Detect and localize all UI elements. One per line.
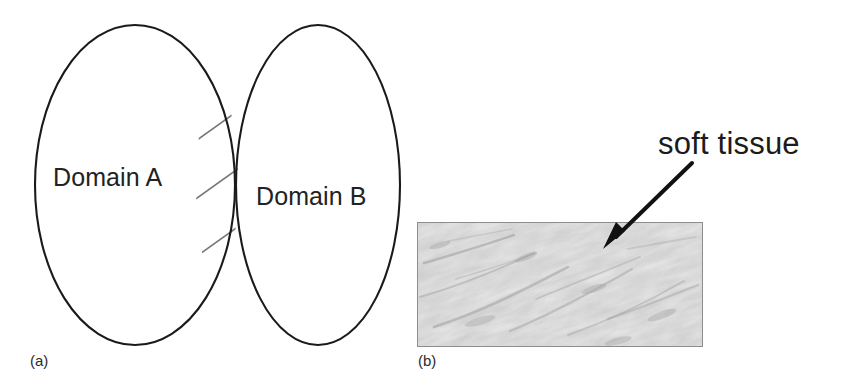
figure-root: Domain A Domain B (a) bbox=[0, 0, 854, 392]
annotation-arrow-svg bbox=[410, 0, 854, 392]
intersection-hatch-fill bbox=[183, 70, 253, 324]
panel-b-micrograph: soft tissue (b) bbox=[410, 0, 854, 392]
soft-tissue-annotation-label: soft tissue bbox=[658, 126, 800, 162]
panel-a-venn-diagram: Domain A Domain B (a) bbox=[0, 0, 410, 392]
panel-a-caption: (a) bbox=[30, 352, 48, 369]
domain-a-label: Domain A bbox=[53, 163, 162, 192]
domain-b-label: Domain B bbox=[256, 182, 367, 211]
arrow-icon bbox=[603, 163, 692, 249]
panel-b-caption: (b) bbox=[418, 352, 436, 369]
